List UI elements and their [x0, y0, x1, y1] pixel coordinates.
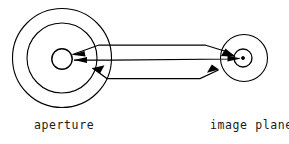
ray-bundle — [73, 45, 240, 79]
arrowhead-right-lower — [207, 65, 219, 73]
optical-ray-diagram-figure: aperture image plane — [0, 0, 289, 144]
aperture-label: aperture — [34, 120, 94, 132]
arrowhead-right-upper — [221, 49, 236, 57]
image-plane-focus-dot — [242, 57, 245, 60]
arrowhead-left-axial — [74, 57, 87, 63]
aperture-inner-circle — [52, 49, 72, 69]
image-plane-label: image plane — [210, 120, 289, 132]
aperture-group — [13, 9, 112, 108]
lower-ray-polyline — [93, 68, 219, 79]
axial-ray-polyline — [74, 58, 240, 60]
